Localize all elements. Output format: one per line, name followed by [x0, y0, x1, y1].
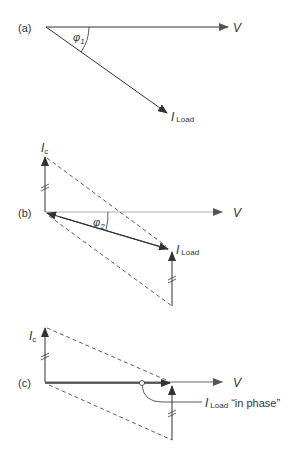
load-current-label-a: ILoad — [171, 110, 194, 124]
dashed-line-c2 — [49, 385, 172, 440]
dashed-line-b2 — [49, 216, 172, 306]
load-current-vector-b — [60, 217, 168, 249]
panel-a: (a) V φ1 ILoad — [18, 21, 242, 124]
panel-a-label: (a) — [18, 22, 31, 34]
load-current-label-c: ILoad“in phase” — [205, 396, 280, 410]
angle-label-a: φ1 — [73, 31, 85, 46]
panel-b-label: (b) — [18, 207, 31, 219]
capacitor-current-label-c: Ic — [29, 329, 36, 344]
dashed-line-c1 — [47, 328, 166, 380]
load-current-vector-a — [46, 27, 167, 113]
phasor-diagram: (a) V φ1 ILoad (b) V Ic φ2 ILoad (c) V — [0, 0, 304, 456]
capacitor-current-label-b: Ic — [41, 141, 48, 156]
panel-c-label: (c) — [18, 377, 31, 389]
angle-arc-b — [106, 212, 108, 230]
voltage-label-a: V — [233, 21, 242, 35]
dashed-line-b1 — [47, 158, 166, 246]
panel-b: (b) V Ic φ2 ILoad — [18, 141, 242, 306]
panel-c: (c) V Ic ILoad“in phase” — [18, 328, 280, 440]
voltage-label-c: V — [233, 376, 242, 390]
in-phase-marker — [140, 381, 145, 386]
voltage-label-b: V — [233, 206, 242, 220]
load-current-label-b: ILoad — [176, 243, 199, 257]
